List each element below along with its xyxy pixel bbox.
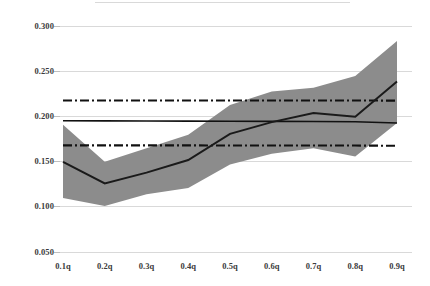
y-tick-label: 0.050 <box>10 248 54 257</box>
plot-canvas <box>0 0 430 286</box>
quantile-regression-chart: 0.300 0.250 0.200 0.150 0.100 0.050 0.1q… <box>0 0 430 286</box>
y-tick-label: 0.150 <box>10 157 54 166</box>
y-tick-label: 0.300 <box>10 22 54 31</box>
x-tick-label-07q: 0.7q <box>294 262 334 271</box>
x-tick-label-04q: 0.4q <box>168 262 208 271</box>
y-tick-label: 0.250 <box>10 67 54 76</box>
x-tick-label-08q: 0.8q <box>335 262 375 271</box>
y-tick-marks <box>54 27 60 253</box>
x-tick-label-02q: 0.2q <box>85 262 125 271</box>
y-axis-tick-labels: 0.300 0.250 0.200 0.150 0.100 0.050 <box>8 0 54 286</box>
x-tick-label-06q: 0.6q <box>252 262 292 271</box>
y-tick-label: 0.200 <box>10 112 54 121</box>
x-axis-tick-labels: 0.1q 0.2q 0.3q 0.4q 0.5q 0.6q 0.7q 0.8q … <box>0 262 430 278</box>
x-tick-label-05q: 0.5q <box>210 262 250 271</box>
x-tick-label-03q: 0.3q <box>127 262 167 271</box>
x-tick-label-01q: 0.1q <box>43 262 83 271</box>
y-tick-label: 0.100 <box>10 202 54 211</box>
x-tick-label-09q: 0.9q <box>377 262 417 271</box>
